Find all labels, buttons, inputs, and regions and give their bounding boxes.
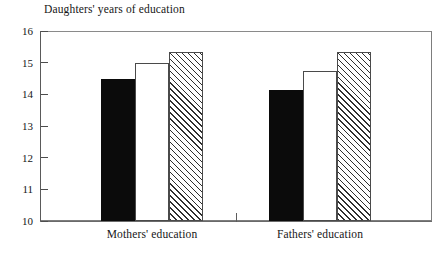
y-axis-tick-label: 14 — [22, 88, 33, 100]
x-axis-group-label: Mothers' education — [107, 228, 198, 240]
bar-2-open — [135, 63, 169, 221]
y-axis-tick-label: 13 — [22, 120, 33, 132]
chart-title: Daughters' years of education — [44, 3, 185, 15]
y-axis-tick-label: 15 — [22, 57, 33, 69]
bar-3-hatched — [337, 52, 371, 221]
y-axis-tick-label: 16 — [22, 25, 33, 37]
x-axis-group-label: Fathers' education — [277, 228, 363, 240]
group-divider-tick — [236, 213, 237, 222]
bar-chart-figure: Daughters' years of education 1011121314… — [0, 0, 446, 261]
bar-1-solid — [101, 79, 135, 222]
y-axis-tick-label: 10 — [22, 215, 33, 227]
bar-3-hatched — [169, 52, 203, 221]
bar-1-solid — [269, 90, 303, 221]
bars-layer — [41, 32, 431, 221]
y-axis-tick-label: 11 — [22, 183, 33, 195]
y-axis-tick-label: 12 — [22, 152, 33, 164]
bar-2-open — [303, 71, 337, 221]
